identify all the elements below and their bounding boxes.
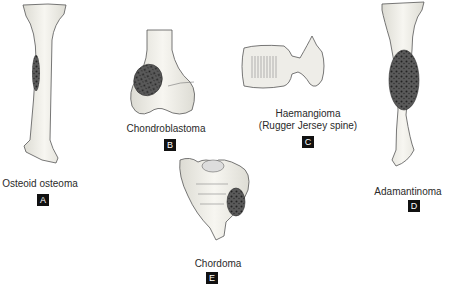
label-e: E (206, 272, 218, 284)
tumor-lesion-e (227, 188, 245, 216)
label-c: C (302, 136, 314, 148)
label-d: D (408, 200, 420, 212)
osteoid-osteoma-bone (23, 4, 66, 163)
chondroblastoma-bone (129, 30, 194, 114)
chordoma-sacrum (180, 158, 249, 240)
caption-chondroblastoma: Chondroblastoma (118, 123, 214, 135)
label-b: B (164, 139, 176, 151)
caption-adamantinoma: Adamantinoma (374, 186, 442, 198)
label-a: A (37, 194, 49, 206)
tumor-lesion-a (32, 55, 40, 91)
haemangioma-vertebra (242, 36, 324, 88)
tumor-lesion-d (389, 50, 419, 110)
illustration-canvas (0, 0, 450, 288)
caption-haemangioma: Haemangioma (250, 108, 366, 120)
caption-chordoma: Chordoma (188, 258, 248, 270)
adamantinoma-bone (382, 2, 424, 166)
caption-rugger-jersey: (Rugger Jersey spine) (250, 120, 366, 132)
caption-osteoid-osteoma: Osteoid osteoma (0, 178, 80, 190)
